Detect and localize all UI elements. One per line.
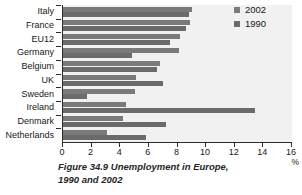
bar-italy-1990: [63, 12, 189, 17]
y-tick-mark: [56, 32, 61, 33]
bar-sweden-1990: [63, 94, 87, 99]
y-label-germany: Germany: [17, 48, 54, 57]
y-label-france: France: [26, 21, 54, 30]
y-tick-mark: [56, 74, 61, 75]
bar-uk-2002: [63, 75, 136, 80]
x-tick-label-8: 8: [174, 148, 179, 157]
legend-label: 2002: [245, 5, 266, 15]
x-tick-label-2: 2: [88, 148, 93, 157]
y-label-ireland: Ireland: [26, 103, 54, 112]
y-label-eu12: EU12: [31, 35, 54, 44]
x-tick-label-0: 0: [59, 148, 64, 157]
y-tick-mark: [56, 46, 61, 47]
y-label-netherlands: Netherlands: [5, 131, 54, 140]
bar-uk-1990: [63, 81, 163, 86]
bar-belgium-1990: [63, 67, 157, 72]
x-axis-unit-label: %: [291, 158, 299, 167]
bar-eu12-1990: [63, 40, 170, 45]
x-tick-label-6: 6: [145, 148, 150, 157]
y-label-sweden: Sweden: [21, 90, 54, 99]
y-tick-mark: [56, 19, 61, 20]
legend-swatch-icon: [234, 21, 240, 27]
y-tick-mark: [56, 5, 61, 6]
bar-germany-2002: [63, 48, 179, 53]
y-label-belgium: Belgium: [21, 62, 54, 71]
y-tick-mark: [56, 115, 61, 116]
bar-germany-1990: [63, 53, 132, 58]
figure-caption: Figure 34.9 Unemployment in Europe, 1990…: [58, 160, 268, 186]
x-tick-label-4: 4: [117, 148, 122, 157]
bar-ireland-2002: [63, 102, 126, 107]
legend-swatch-icon: [234, 7, 240, 13]
legend-item-1990: 1990: [234, 19, 296, 29]
y-tick-mark: [56, 128, 61, 129]
y-label-denmark: Denmark: [17, 117, 54, 126]
y-tick-mark: [56, 60, 61, 61]
caption-line-2: 1990 and 2002: [58, 173, 268, 186]
bar-sweden-2002: [63, 89, 135, 94]
bar-italy-2002: [63, 7, 192, 12]
y-label-italy: Italy: [37, 7, 54, 16]
y-tick-mark: [56, 101, 61, 102]
bar-france-2002: [63, 20, 190, 25]
bar-eu12-2002: [63, 34, 180, 39]
bar-belgium-2002: [63, 61, 160, 66]
x-tick-label-16: 16: [286, 148, 296, 157]
bar-ireland-1990: [63, 108, 255, 113]
bar-netherlands-2002: [63, 130, 107, 135]
chart-legend: 20021990: [234, 5, 296, 33]
figure-unemployment-in-europe: ItalyFranceEU12GermanyBelgiumUKSwedenIre…: [0, 0, 302, 195]
bar-france-1990: [63, 26, 186, 31]
y-tick-mark: [56, 87, 61, 88]
y-label-uk: UK: [41, 76, 54, 85]
caption-line-1: Figure 34.9 Unemployment in Europe,: [58, 160, 268, 173]
x-tick-label-10: 10: [200, 148, 210, 157]
y-axis-category-labels: ItalyFranceEU12GermanyBelgiumUKSwedenIre…: [0, 5, 59, 142]
bar-denmark-1990: [63, 122, 166, 127]
x-tick-label-14: 14: [257, 148, 267, 157]
legend-label: 1990: [245, 19, 266, 29]
bar-netherlands-1990: [63, 135, 146, 140]
x-tick-label-12: 12: [229, 148, 239, 157]
legend-item-2002: 2002: [234, 5, 296, 15]
bar-denmark-2002: [63, 116, 123, 121]
